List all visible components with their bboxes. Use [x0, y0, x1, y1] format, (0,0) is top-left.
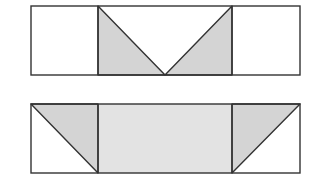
- top-strip-shaded-triangle: [98, 6, 165, 75]
- bottom-strip: [31, 104, 300, 173]
- diagram-canvas: [0, 0, 320, 187]
- bottom-strip-shaded-triangle: [31, 104, 98, 173]
- bottom-strip-shaded-triangle: [232, 104, 300, 173]
- bottom-strip-center-shaded: [98, 104, 232, 173]
- top-strip-shaded-triangle: [165, 6, 232, 75]
- top-strip: [31, 6, 300, 75]
- top-strip-outline: [31, 6, 300, 75]
